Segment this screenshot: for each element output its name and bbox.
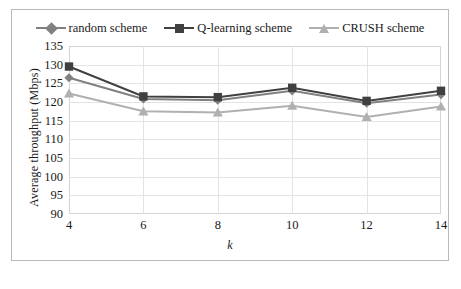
- y-tick-label: 135: [44, 40, 63, 53]
- legend-label-q-learning-scheme: Q-learning scheme: [197, 22, 292, 35]
- square-marker-icon: [288, 84, 296, 92]
- legend-marker-diamond-icon: [36, 22, 66, 34]
- x-axis-title: k: [12, 238, 448, 253]
- y-tick-label: 105: [44, 152, 63, 165]
- x-tick-label: 10: [286, 219, 299, 232]
- figure-container: random scheme Q-learning scheme CRUSH sc…: [11, 9, 449, 261]
- y-tick-label: 125: [44, 77, 63, 90]
- legend-item-crush-scheme: CRUSH scheme: [309, 22, 424, 35]
- legend-item-q-learning-scheme: Q-learning scheme: [164, 22, 292, 35]
- square-marker-icon: [139, 92, 147, 100]
- square-marker-icon: [65, 62, 73, 70]
- y-tick-label: 130: [44, 58, 63, 71]
- x-tick-label: 12: [360, 219, 373, 232]
- square-marker-icon: [437, 87, 445, 95]
- diamond-icon: [45, 22, 58, 35]
- x-tick-label: 4: [66, 219, 72, 232]
- diamond-marker-icon: [64, 73, 73, 82]
- square-marker-icon: [214, 93, 222, 101]
- y-tick-label: 90: [51, 208, 64, 221]
- data-series-layer: [69, 46, 441, 214]
- square-icon: [175, 24, 184, 33]
- y-tick-label: 100: [44, 170, 63, 183]
- triangle-marker-icon: [64, 88, 74, 97]
- legend-label-crush-scheme: CRUSH scheme: [342, 22, 424, 35]
- y-axis-title: Average throughput (Mbps): [27, 53, 42, 223]
- legend-item-random-scheme: random scheme: [36, 22, 148, 35]
- triangle-icon: [319, 24, 329, 33]
- y-tick-label: 110: [45, 133, 63, 146]
- square-marker-icon: [362, 97, 370, 105]
- x-tick-label: 6: [140, 219, 146, 232]
- legend-marker-triangle-icon: [309, 22, 339, 34]
- y-tick-label: 115: [45, 114, 63, 127]
- series-line: [69, 93, 441, 117]
- legend-marker-square-icon: [164, 22, 194, 34]
- y-tick-label: 95: [51, 189, 64, 202]
- x-tick-label: 14: [435, 219, 448, 232]
- x-tick-label: 8: [215, 219, 221, 232]
- y-tick-label: 120: [44, 96, 63, 109]
- legend-label-random-scheme: random scheme: [69, 22, 148, 35]
- plot-area: 1351301251201151101051009590 468101214: [69, 46, 441, 214]
- chart-legend: random scheme Q-learning scheme CRUSH sc…: [12, 22, 448, 35]
